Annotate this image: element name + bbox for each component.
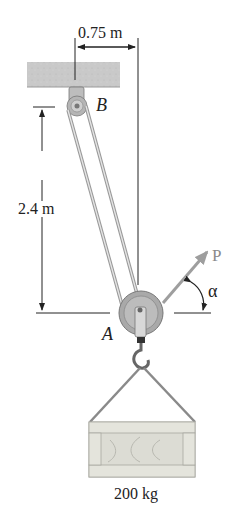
- mass-label: 200 kg: [114, 486, 158, 502]
- vertical-dimension: [33, 107, 211, 313]
- pulley-b-label: B: [96, 96, 107, 114]
- angle-label: α: [208, 282, 217, 300]
- rope: [68, 106, 140, 305]
- horizontal-dimension-label: 0.75 m: [78, 25, 122, 41]
- sling: [90, 368, 195, 422]
- pulley-a: [119, 291, 163, 343]
- pulley-a-label: A: [102, 325, 113, 343]
- hook: [134, 343, 149, 368]
- pulley-diagram: [0, 0, 231, 506]
- force-label: P: [212, 247, 221, 264]
- ceiling-support: [27, 62, 120, 87]
- crate: [89, 422, 195, 477]
- vertical-dimension-label: 2.4 m: [18, 201, 54, 217]
- force-arrow: [163, 252, 207, 303]
- angle-arc: [191, 282, 204, 310]
